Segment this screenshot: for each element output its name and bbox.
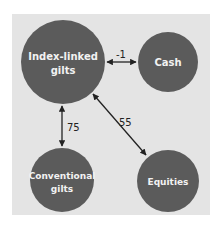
label-index-linked-gilts-line1: Index-linked xyxy=(28,51,98,62)
label-conventional-gilts-line2: gilts xyxy=(51,184,73,194)
label-equities: Equities xyxy=(148,177,189,187)
label-index-linked-gilts-line2: gilts xyxy=(51,65,76,76)
edge-label-ilg-eq: 55 xyxy=(119,117,132,128)
correlation-diagram: Index-linked gilts Cash Conventional gil… xyxy=(0,0,221,230)
label-cash: Cash xyxy=(154,57,181,68)
node-index-linked-gilts xyxy=(21,20,105,104)
edge-label-ilg-conv: 75 xyxy=(67,122,80,133)
label-conventional-gilts-line1: Conventional xyxy=(29,171,96,181)
edge-label-ilg-cash: -1 xyxy=(116,49,126,60)
